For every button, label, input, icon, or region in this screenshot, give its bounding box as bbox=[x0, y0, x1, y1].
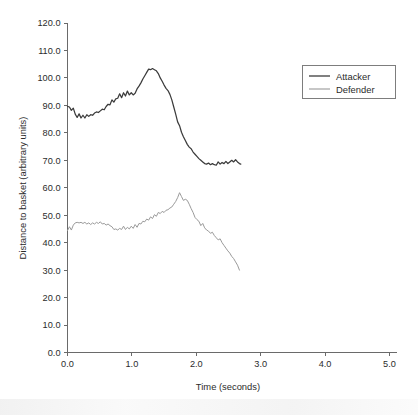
series-line-defender bbox=[68, 193, 240, 270]
x-tick-label: 5.0 bbox=[383, 359, 396, 369]
chart-figure: Distance to basket (arbitrary units) Tim… bbox=[0, 0, 418, 415]
x-axis-title: Time (seconds) bbox=[196, 381, 260, 392]
y-tick-label: 90.0 bbox=[43, 101, 61, 111]
x-tick-label: 3.0 bbox=[254, 359, 267, 369]
y-axis-title: Distance to basket (arbitrary units) bbox=[17, 117, 28, 260]
legend-label-defender: Defender bbox=[336, 84, 375, 95]
series-line-attacker bbox=[68, 69, 241, 166]
x-tick-label: 1.0 bbox=[126, 359, 139, 369]
y-tick-label: 80.0 bbox=[43, 128, 61, 138]
y-tick-label: 30.0 bbox=[43, 266, 61, 276]
x-axis-ticks: 0.01.02.03.04.05.0 bbox=[61, 353, 396, 369]
y-tick-label: 60.0 bbox=[43, 183, 61, 193]
legend: Attacker Defender bbox=[303, 66, 396, 99]
y-tick-label: 110.0 bbox=[38, 46, 60, 56]
y-axis-ticks: 0.010.020.030.040.050.060.070.080.090.01… bbox=[38, 18, 68, 358]
x-tick-label: 4.0 bbox=[319, 359, 332, 369]
y-tick-label: 120.0 bbox=[38, 18, 61, 28]
y-tick-label: 70.0 bbox=[43, 156, 61, 166]
y-tick-label: 10.0 bbox=[43, 320, 61, 330]
y-tick-label: 20.0 bbox=[43, 293, 61, 303]
series-layer bbox=[68, 69, 241, 271]
legend-label-attacker: Attacker bbox=[336, 71, 370, 82]
x-tick-label: 0.0 bbox=[61, 359, 74, 369]
x-tick-label: 2.0 bbox=[190, 359, 203, 369]
y-tick-label: 0.0 bbox=[48, 348, 61, 358]
line-chart-svg: Distance to basket (arbitrary units) Tim… bbox=[0, 0, 418, 415]
y-tick-label: 100.0 bbox=[38, 73, 61, 83]
y-tick-label: 40.0 bbox=[43, 238, 61, 248]
y-tick-label: 50.0 bbox=[43, 211, 61, 221]
